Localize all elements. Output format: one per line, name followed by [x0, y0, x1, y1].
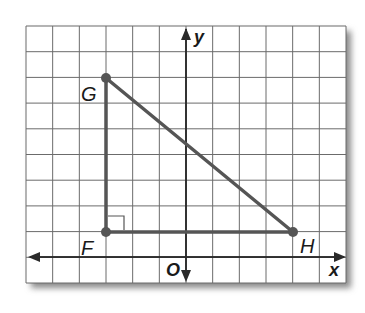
point-g [101, 73, 111, 83]
point-h-label: H [300, 235, 315, 257]
coordinate-plane: y x O G F H [0, 0, 365, 313]
point-h [288, 227, 298, 237]
point-f-label: F [81, 237, 95, 259]
y-axis-label: y [193, 27, 205, 47]
point-g-label: G [81, 83, 97, 105]
origin-label: O [166, 260, 180, 280]
point-f [101, 227, 111, 237]
x-axis-label: x [328, 260, 340, 280]
